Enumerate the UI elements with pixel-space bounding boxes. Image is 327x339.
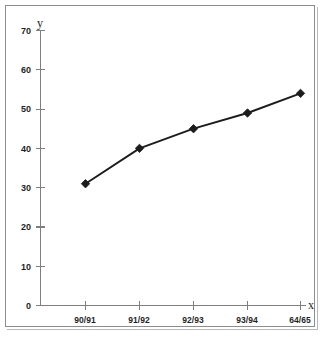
y-axis-ticks: 70 60 50 40 30 20 10 0 (21, 26, 45, 311)
y-tick-label: 60 (21, 65, 31, 75)
x-tick-label: 90/91 (74, 315, 96, 325)
line-chart-plot: y x 70 60 50 40 30 20 10 0 90/91 91/92 9… (0, 0, 327, 339)
x-tick-label: 92/93 (182, 315, 204, 325)
x-axis-ticks: 90/91 91/92 92/93 93/94 64/65 (74, 301, 311, 325)
x-axis-title: x (308, 298, 314, 312)
y-tick-label: 40 (21, 144, 31, 154)
data-point-marker (243, 109, 251, 117)
x-tick-label: 93/94 (236, 315, 258, 325)
y-tick-label: 20 (21, 222, 31, 232)
y-tick-label: 0 (26, 301, 31, 311)
x-tick-label: 64/65 (289, 315, 311, 325)
data-point-marker (189, 125, 197, 133)
series-line (86, 93, 301, 183)
y-tick-label: 30 (21, 183, 31, 193)
data-point-marker (296, 89, 304, 97)
y-tick-label: 50 (21, 104, 31, 114)
y-tick-label: 10 (21, 262, 31, 272)
x-tick-label: 91/92 (128, 315, 150, 325)
y-tick-label: 70 (21, 26, 31, 36)
y-axis-title: y (37, 16, 43, 30)
